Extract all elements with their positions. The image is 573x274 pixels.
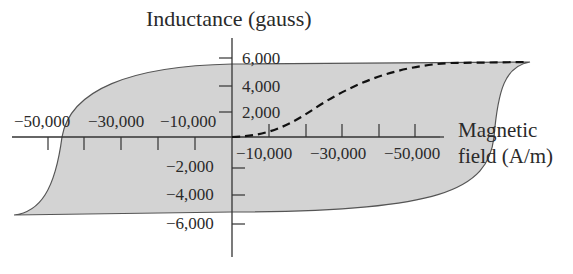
x-tick-label: −10,000 [160, 112, 216, 131]
x-tick-label: −50,000 [14, 112, 70, 131]
hysteresis-chart: Inductance (gauss) 6,000 4,000 2,000 −2,… [0, 0, 573, 274]
x-tick-label: −30,000 [310, 144, 366, 163]
y-tick-label: 2,000 [242, 103, 280, 122]
y-tick-label: 6,000 [242, 49, 280, 68]
x-tick-label: −10,000 [236, 144, 292, 163]
x-axis-title-line1: Magnetic [458, 118, 537, 142]
x-tick-label: −50,000 [384, 144, 440, 163]
y-tick-label: −4,000 [166, 185, 214, 204]
y-tick-label: −6,000 [166, 214, 214, 233]
y-tick-label: 4,000 [242, 77, 280, 96]
x-tick-label: −30,000 [88, 112, 144, 131]
y-axis-title: Inductance (gauss) [146, 6, 312, 31]
y-tick-label: −2,000 [166, 157, 214, 176]
x-axis-title-line2: field (A/m) [458, 144, 553, 168]
